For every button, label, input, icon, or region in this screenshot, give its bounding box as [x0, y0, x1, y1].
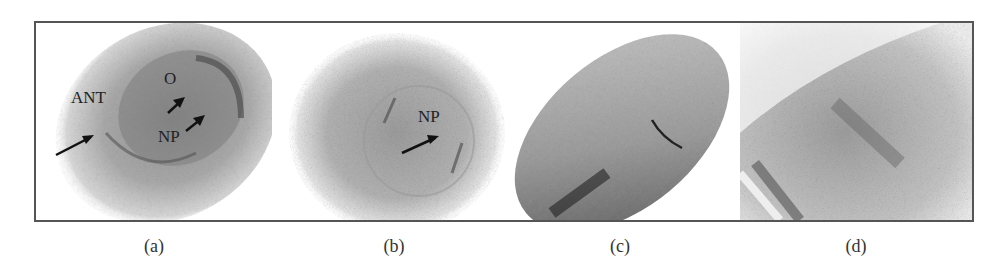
panel-b-image: NP — [272, 23, 512, 220]
figure-frame: ANT O NP NP — [34, 21, 974, 222]
annotation-o: O — [164, 69, 176, 89]
annotation-ant: ANT — [71, 88, 106, 108]
panel-b-label: (b) — [384, 236, 405, 257]
panel-a-label: (a) — [144, 236, 164, 257]
annotation-np: NP — [158, 127, 180, 147]
panel-a-image: ANT O NP — [36, 23, 272, 220]
panel-c-label: (c) — [610, 236, 630, 257]
annotation-np: NP — [418, 107, 440, 127]
panel-d-image — [740, 23, 972, 220]
panel-c-image — [512, 23, 740, 220]
panel-d-label: (d) — [846, 236, 867, 257]
